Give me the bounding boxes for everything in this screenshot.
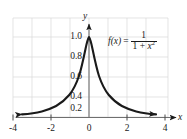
function-graph-figure: y x 1.0 0.8 0.6 0.4 0.2 -4 -2 0 2 4 f(x)…	[0, 0, 187, 139]
function-formula-annotation: f(x) = 1 1 + x2	[108, 31, 157, 52]
formula-equals: =	[123, 37, 128, 47]
formula-fraction: 1 1 + x2	[131, 31, 157, 52]
y-tick-label-0_2: 0.2	[60, 104, 82, 114]
formula-numerator: 1	[137, 31, 150, 41]
y-tick-label-0_6: 0.6	[60, 72, 82, 82]
plot-canvas	[0, 0, 187, 139]
y-tick-label-0_8: 0.8	[60, 52, 82, 62]
formula-denominator-exponent: 2	[152, 39, 155, 46]
x-tick-label-4: 4	[155, 124, 175, 134]
formula-denominator-prefix: 1 +	[133, 41, 148, 51]
y-tick-label-1: 1.0	[60, 32, 82, 42]
x-axis-label: x	[178, 113, 182, 123]
x-tick-label-minus-4: -4	[3, 124, 23, 134]
y-axis-label: y	[83, 12, 87, 22]
y-tick-label-0_4: 0.4	[60, 92, 82, 102]
x-tick-label-minus-2: -2	[41, 124, 61, 134]
x-tick-label-0: 0	[79, 124, 99, 134]
formula-lhs: f(x)	[108, 37, 121, 47]
x-tick-label-2: 2	[117, 124, 137, 134]
formula-denominator: 1 + x2	[131, 42, 157, 52]
